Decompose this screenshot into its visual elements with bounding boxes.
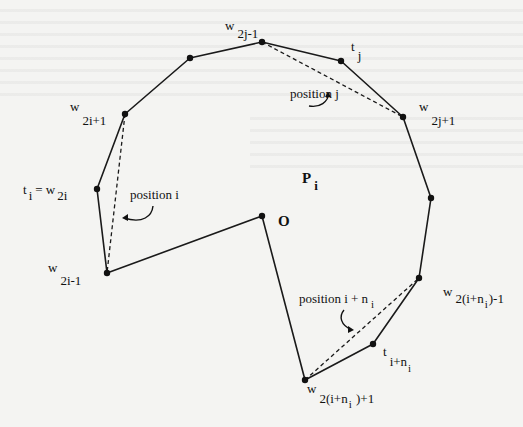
vertex-w2i+1 [122,111,128,117]
label-Pi: Pi [302,170,318,193]
vertex-w2j-1 [259,39,265,45]
vertex-w2ini-1 [416,275,422,281]
arrowhead-icon [348,326,354,333]
arrow-position-ini-icon [341,310,352,330]
label-w2i+1: w2i+1 [70,99,106,128]
polygon-diagram: w2j-1 tj w2j+1 w2i+1 ti= w2i w2i-1 O Pi … [0,0,523,427]
arrow-position-i-icon [124,206,153,220]
annotation-position-i: position i [130,187,179,202]
arrowhead-icon [122,214,128,221]
label-O: O [278,213,290,229]
label-w2j-1: w2j-1 [225,18,258,41]
label-t-i-plus-ni: ti+ni [383,344,411,374]
vertex-right [428,195,434,201]
vertex-O [259,213,265,219]
label-w2i-1: w2i-1 [48,260,81,288]
annotation-position-i-plus-ni: position i + ni [299,291,374,310]
polygon-outline [97,42,431,380]
chord-position-j [262,42,403,117]
vertex-tj [338,58,344,64]
label-w2ini-1: w2(i+ni)-1 [443,284,504,310]
vertex-tini [370,341,376,347]
vertex-dots [94,39,434,383]
vertex-topleft [187,55,193,61]
vertex-w2i-1 [104,270,110,276]
label-w2j+1: w2j+1 [419,99,455,128]
vertex-w2j+1 [400,114,406,120]
label-w2ini+1: w2(i+ni )+1 [307,381,374,410]
vertex-ti [94,186,100,192]
label-tj: tj [351,39,361,63]
annotation-position-j: position j [290,86,339,101]
label-ti-equals-w2i: ti= w2i [23,182,68,203]
